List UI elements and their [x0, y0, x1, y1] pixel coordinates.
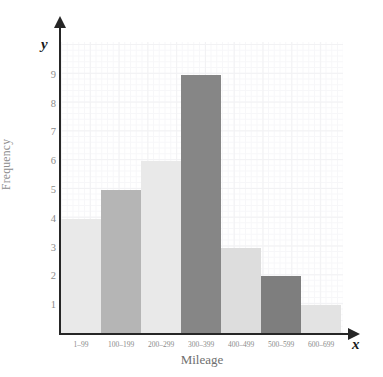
- y-tick-label: 1: [12, 299, 56, 310]
- y-tick-label: 3: [12, 242, 56, 253]
- y-tick-label: 9: [12, 69, 56, 80]
- x-tick-label: 200–299: [141, 340, 181, 349]
- y-tick-label: 4: [12, 213, 56, 224]
- x-axis-arrow-icon: [348, 328, 360, 340]
- x-tick-label: 400–499: [221, 340, 261, 349]
- bar: [261, 276, 301, 334]
- y-axis-line: [59, 25, 61, 335]
- y-axis-arrow-icon: [54, 16, 66, 28]
- bar: [141, 161, 181, 334]
- bar: [181, 75, 221, 334]
- y-tick-label: 8: [12, 98, 56, 109]
- bar: [101, 190, 141, 334]
- x-axis-title: Mileage: [61, 352, 343, 368]
- y-tick-label: 2: [12, 270, 56, 281]
- x-tick-label: 500–599: [261, 340, 301, 349]
- x-tick-label: 600–699: [301, 340, 341, 349]
- bar: [61, 219, 101, 334]
- bar: [221, 248, 261, 334]
- x-tick-label: 100–199: [101, 340, 141, 349]
- x-tick-label: 300–399: [181, 340, 221, 349]
- y-axis-tick-labels: 123456789: [0, 0, 56, 377]
- plot-area: [61, 42, 343, 334]
- x-tick-label: 1–99: [61, 340, 101, 349]
- y-tick-label: 7: [12, 126, 56, 137]
- histogram-chart: Frequency y x 123456789 1–99100–199200–2…: [0, 0, 383, 377]
- y-tick-label: 6: [12, 155, 56, 166]
- bar: [301, 305, 341, 334]
- y-tick-label: 5: [12, 184, 56, 195]
- x-axis-line: [60, 333, 350, 335]
- bar-series: [61, 42, 343, 334]
